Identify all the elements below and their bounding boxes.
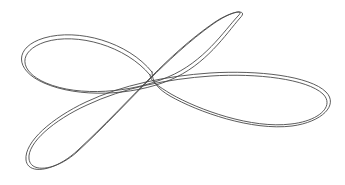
figure-canvas xyxy=(0,0,345,185)
canvas-background xyxy=(0,0,345,185)
curve-drawing xyxy=(0,0,345,185)
